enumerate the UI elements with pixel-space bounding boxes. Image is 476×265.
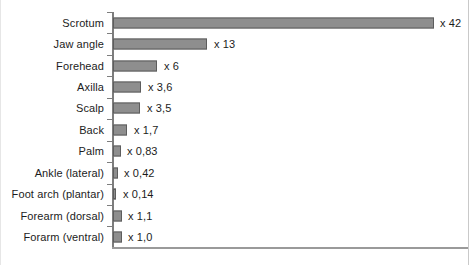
bar-row: Foot arch (plantar) x 0,14 xyxy=(0,184,476,205)
bar xyxy=(113,167,118,178)
category-label: Forarm (ventral) xyxy=(24,231,104,243)
value-label: x 1,1 xyxy=(128,210,152,222)
bar-row: Forearm (dorsal) x 1,1 xyxy=(0,205,476,226)
value-label: x 3,6 xyxy=(148,81,172,93)
category-label: Scrotum xyxy=(62,17,104,29)
y-axis-tick xyxy=(107,226,112,227)
value-label: x 3,5 xyxy=(147,102,171,114)
y-axis-tick xyxy=(107,33,112,34)
bar xyxy=(113,39,207,50)
value-label: x 0,42 xyxy=(124,167,155,179)
value-label: x 0,14 xyxy=(123,188,154,200)
category-label: Back xyxy=(79,124,104,136)
y-axis-tick xyxy=(107,55,112,56)
bar-row: Axilla x 3,6 xyxy=(0,76,476,97)
bar xyxy=(113,210,122,221)
bar xyxy=(113,146,121,157)
bar xyxy=(113,82,141,93)
bar xyxy=(113,189,116,200)
bar-row: Forehead x 6 xyxy=(0,55,476,76)
value-label: x 6 xyxy=(164,60,179,72)
value-label: x 13 xyxy=(214,38,235,50)
bar xyxy=(113,60,157,71)
value-label: x 0,83 xyxy=(127,145,158,157)
value-label: x 1,0 xyxy=(128,231,152,243)
bar xyxy=(113,232,122,243)
value-label: x 42 xyxy=(440,17,461,29)
category-label: Ankle (lateral) xyxy=(35,167,104,179)
plot-area: Scrotum x 42 Jaw angle x 13 Forehead x 6… xyxy=(0,0,476,265)
y-axis-tick xyxy=(107,141,112,142)
bar xyxy=(113,124,127,135)
y-axis-tick xyxy=(107,119,112,120)
category-label: Palm xyxy=(79,145,104,157)
bar xyxy=(113,103,140,114)
y-axis-tick xyxy=(107,162,112,163)
bar xyxy=(113,17,434,28)
bar-row: Scalp x 3,5 xyxy=(0,98,476,119)
bar-row: Jaw angle x 13 xyxy=(0,33,476,54)
category-label: Foot arch (plantar) xyxy=(12,188,104,200)
bar-row: Ankle (lateral) x 0,42 xyxy=(0,162,476,183)
y-axis-tick xyxy=(107,76,112,77)
category-label: Forehead xyxy=(56,60,104,72)
bar-chart-figure: Scrotum x 42 Jaw angle x 13 Forehead x 6… xyxy=(0,0,476,265)
y-axis-tick xyxy=(107,205,112,206)
category-label: Scalp xyxy=(76,102,104,114)
value-label: x 1,7 xyxy=(134,124,158,136)
bar-row: Palm x 0,83 xyxy=(0,141,476,162)
y-axis-tick xyxy=(107,184,112,185)
y-axis-tick xyxy=(107,98,112,99)
y-axis-tick xyxy=(107,12,112,13)
category-label: Axilla xyxy=(77,81,104,93)
bar-rows: Scrotum x 42 Jaw angle x 13 Forehead x 6… xyxy=(0,12,476,248)
bar-row: Forarm (ventral) x 1,0 xyxy=(0,226,476,247)
bar-row: Back x 1,7 xyxy=(0,119,476,140)
category-label: Jaw angle xyxy=(54,38,104,50)
bar-row: Scrotum x 42 xyxy=(0,12,476,33)
category-label: Forearm (dorsal) xyxy=(20,210,104,222)
